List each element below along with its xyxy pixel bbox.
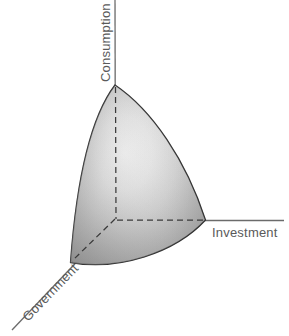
surface-group [71,85,206,265]
figure-canvas: Consumption Investment Government [0,0,289,336]
investment-axis-label: Investment [212,225,278,240]
government-axis-label: Government [19,261,81,324]
production-possibilities-figure: Consumption Investment Government [0,0,289,336]
consumption-axis-label: Consumption [98,3,113,82]
